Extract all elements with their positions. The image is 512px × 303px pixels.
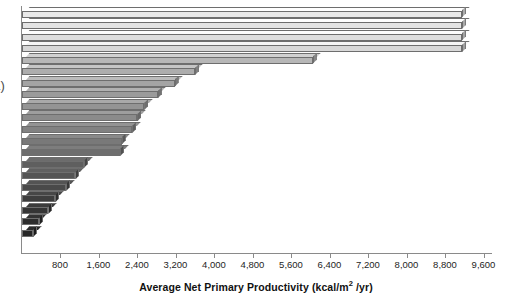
bar xyxy=(22,76,179,87)
x-axis-tick xyxy=(484,254,485,258)
x-axis-line xyxy=(21,253,492,254)
bar xyxy=(22,214,43,225)
bar xyxy=(22,191,60,202)
bar xyxy=(22,168,80,179)
x-axis-tick xyxy=(137,254,138,258)
bar xyxy=(22,110,142,121)
bar-front-face xyxy=(22,207,49,214)
bar-front-face xyxy=(22,149,121,156)
bar-front-face xyxy=(22,114,138,121)
x-axis-tick xyxy=(253,254,254,258)
bar-front-face xyxy=(22,230,34,237)
bar xyxy=(22,64,199,75)
bar xyxy=(22,203,53,214)
bar xyxy=(22,145,125,156)
x-axis-tick xyxy=(60,254,61,258)
x-axis-tick-label: 1,600 xyxy=(87,259,111,270)
x-axis-tick xyxy=(176,254,177,258)
x-axis-tick xyxy=(407,254,408,258)
bar-front-face xyxy=(22,103,145,110)
bar xyxy=(22,30,466,41)
bar-front-face xyxy=(22,22,462,29)
bar-front-face xyxy=(22,172,76,179)
bar xyxy=(22,99,149,110)
bar xyxy=(22,53,317,64)
x-axis-tick xyxy=(368,254,369,258)
bar xyxy=(22,18,466,29)
bar-front-face xyxy=(22,45,462,52)
bar-front-face xyxy=(22,91,158,98)
x-axis-tick-label: 2,400 xyxy=(125,259,149,270)
x-axis-tick-label: 8,800 xyxy=(433,259,457,270)
plot-area: 8001,6002,4003,2004,0004,8005,6006,4007,… xyxy=(0,0,512,303)
x-axis-tick-label: 8,000 xyxy=(395,259,419,270)
bar-front-face xyxy=(22,57,313,64)
x-axis-tick xyxy=(99,254,100,258)
bar-front-face xyxy=(22,126,133,133)
x-axis-tick xyxy=(445,254,446,258)
bar xyxy=(22,122,137,133)
bar xyxy=(22,41,466,52)
x-axis-tick-label: 9,600 xyxy=(472,259,496,270)
x-axis-tick-label: 7,200 xyxy=(356,259,380,270)
x-axis-tick-label: 4,800 xyxy=(241,259,265,270)
x-axis-title: Average Net Primary Productivity (kcal/m… xyxy=(0,279,512,293)
bar xyxy=(22,7,466,18)
bar-front-face xyxy=(22,184,67,191)
bar-front-face xyxy=(22,195,56,202)
x-axis-tick-label: 800 xyxy=(52,259,68,270)
x-axis-tick-label: 5,600 xyxy=(279,259,303,270)
bar-front-face xyxy=(22,138,122,145)
x-axis-tick-label: 3,200 xyxy=(164,259,188,270)
chart-figure: a) 8001,6002,4003,2004,0004,8005,6006,40… xyxy=(0,0,512,303)
bar xyxy=(22,157,89,168)
x-axis-tick xyxy=(330,254,331,258)
bar xyxy=(22,134,126,145)
bar xyxy=(22,180,71,191)
bar xyxy=(22,226,38,237)
bar-front-face xyxy=(22,80,175,87)
x-axis-tick xyxy=(214,254,215,258)
bar-front-face xyxy=(22,11,462,18)
bar-front-face xyxy=(22,218,39,225)
bar-front-face xyxy=(22,34,462,41)
bar-front-face xyxy=(22,68,195,75)
x-axis-tick xyxy=(291,254,292,258)
bar xyxy=(22,87,162,98)
x-axis-tick-label: 6,400 xyxy=(318,259,342,270)
x-axis-tick-label: 4,000 xyxy=(202,259,226,270)
bar-front-face xyxy=(22,161,85,168)
